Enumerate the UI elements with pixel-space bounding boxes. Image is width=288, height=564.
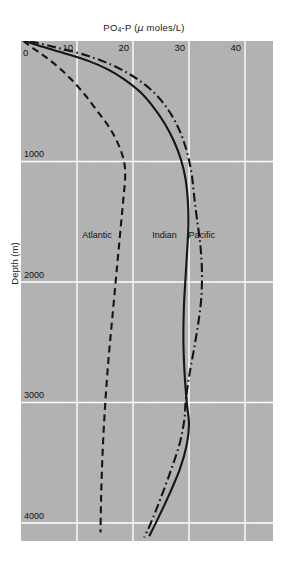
curve-label-atlantic: Atlantic	[82, 230, 112, 240]
plot-svg	[21, 41, 273, 541]
y-tick-label-4000: 4000	[24, 511, 44, 521]
figure: PO4-P (μ moles/L) Depth (m) 010203040 10…	[0, 0, 288, 564]
y-tick-label-2000: 2000	[24, 270, 44, 280]
curve-indian	[24, 41, 189, 536]
chart-title-lead: PO	[103, 22, 117, 33]
y-tick-label-1000: 1000	[24, 149, 44, 159]
curve-atlantic	[23, 41, 125, 533]
chart-title-mid: -P (	[122, 22, 138, 33]
x-tick-label-20: 20	[111, 42, 129, 53]
x-tick-label-10: 10	[55, 42, 73, 53]
chart-title: PO4-P (μ moles/L)	[0, 22, 288, 33]
x-tick-label-40: 40	[223, 42, 241, 53]
y-gridlines	[21, 161, 273, 522]
curve-label-indian: Indian	[152, 230, 177, 240]
curve-label-pacific: Pacific	[189, 230, 216, 240]
y-axis-label: Depth (m)	[9, 224, 20, 304]
x-tick-label-30: 30	[167, 42, 185, 53]
chart-title-tail: moles/L)	[144, 22, 185, 33]
x-tick-label-0: 0	[23, 47, 28, 58]
data-curves	[23, 41, 202, 537]
y-tick-label-3000: 3000	[24, 390, 44, 400]
plot-area: 010203040 1000200030004000 AtlanticIndia…	[21, 41, 273, 541]
